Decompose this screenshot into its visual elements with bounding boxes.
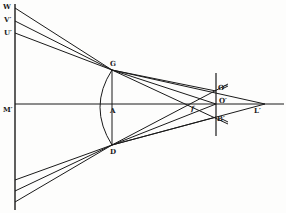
ray-g-o2 [112, 70, 216, 91]
label-w: W [3, 3, 11, 10]
label-d: D [110, 148, 116, 155]
label-l-prime: L′ [254, 107, 261, 114]
label-m-prime: M′ [3, 106, 13, 113]
ray-d-lower3 [15, 145, 112, 202]
label-u-prime: U′ [4, 29, 12, 36]
label-g: G [110, 60, 116, 67]
ray-d-lower1 [15, 145, 112, 180]
ray-d-lower2 [15, 145, 112, 191]
ray-g-b [112, 70, 228, 124]
ray-d-o2 [112, 84, 228, 145]
diagram-canvas [0, 0, 286, 213]
label-o-prime: O′ [219, 97, 227, 104]
ray-d-b [112, 117, 216, 145]
label-o-double-prime: O″ [218, 84, 227, 91]
label-f: f [191, 105, 194, 112]
ray-d-o1 [112, 104, 216, 145]
label-b-prime: B′ [217, 115, 225, 122]
label-v-prime: V′ [4, 16, 11, 23]
ray-v-g [15, 21, 112, 70]
ray-diagram: W V′ U′ M′ G A D f O″ O′ B′ L′ [0, 0, 286, 213]
label-a: A [110, 107, 115, 114]
